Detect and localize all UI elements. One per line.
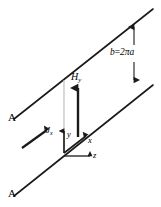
figure-canvas: [0, 0, 161, 207]
label-current-subscript: x: [50, 130, 53, 136]
physics-figure: A A b=2πa Hy Jx y x z: [0, 0, 161, 207]
label-axis-z: z: [93, 151, 96, 160]
label-current: Jx: [46, 126, 53, 136]
label-axis-x: x: [88, 136, 92, 145]
label-axis-y: y: [67, 130, 71, 139]
label-sheet-top-A: A: [8, 112, 16, 123]
label-field: Hy: [71, 72, 81, 84]
label-spacing-value: 2πa: [120, 47, 134, 57]
current-arrow: [22, 130, 47, 148]
label-spacing: b=2πa: [110, 48, 134, 58]
label-sheet-bottom-A: A: [8, 188, 16, 199]
label-field-subscript: y: [78, 76, 81, 83]
